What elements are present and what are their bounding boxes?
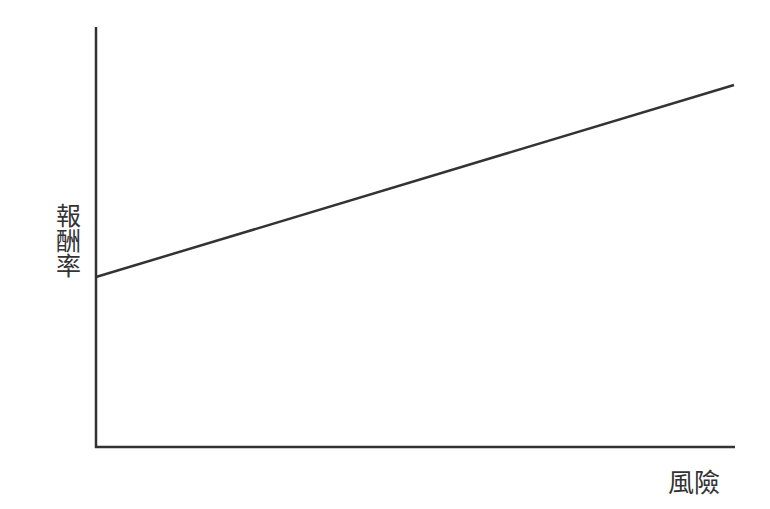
y-axis-label: 報酬率 [50, 203, 80, 278]
risk-return-line [96, 85, 734, 277]
x-axis-label: 風險 [668, 468, 720, 498]
risk-return-chart [0, 0, 770, 509]
